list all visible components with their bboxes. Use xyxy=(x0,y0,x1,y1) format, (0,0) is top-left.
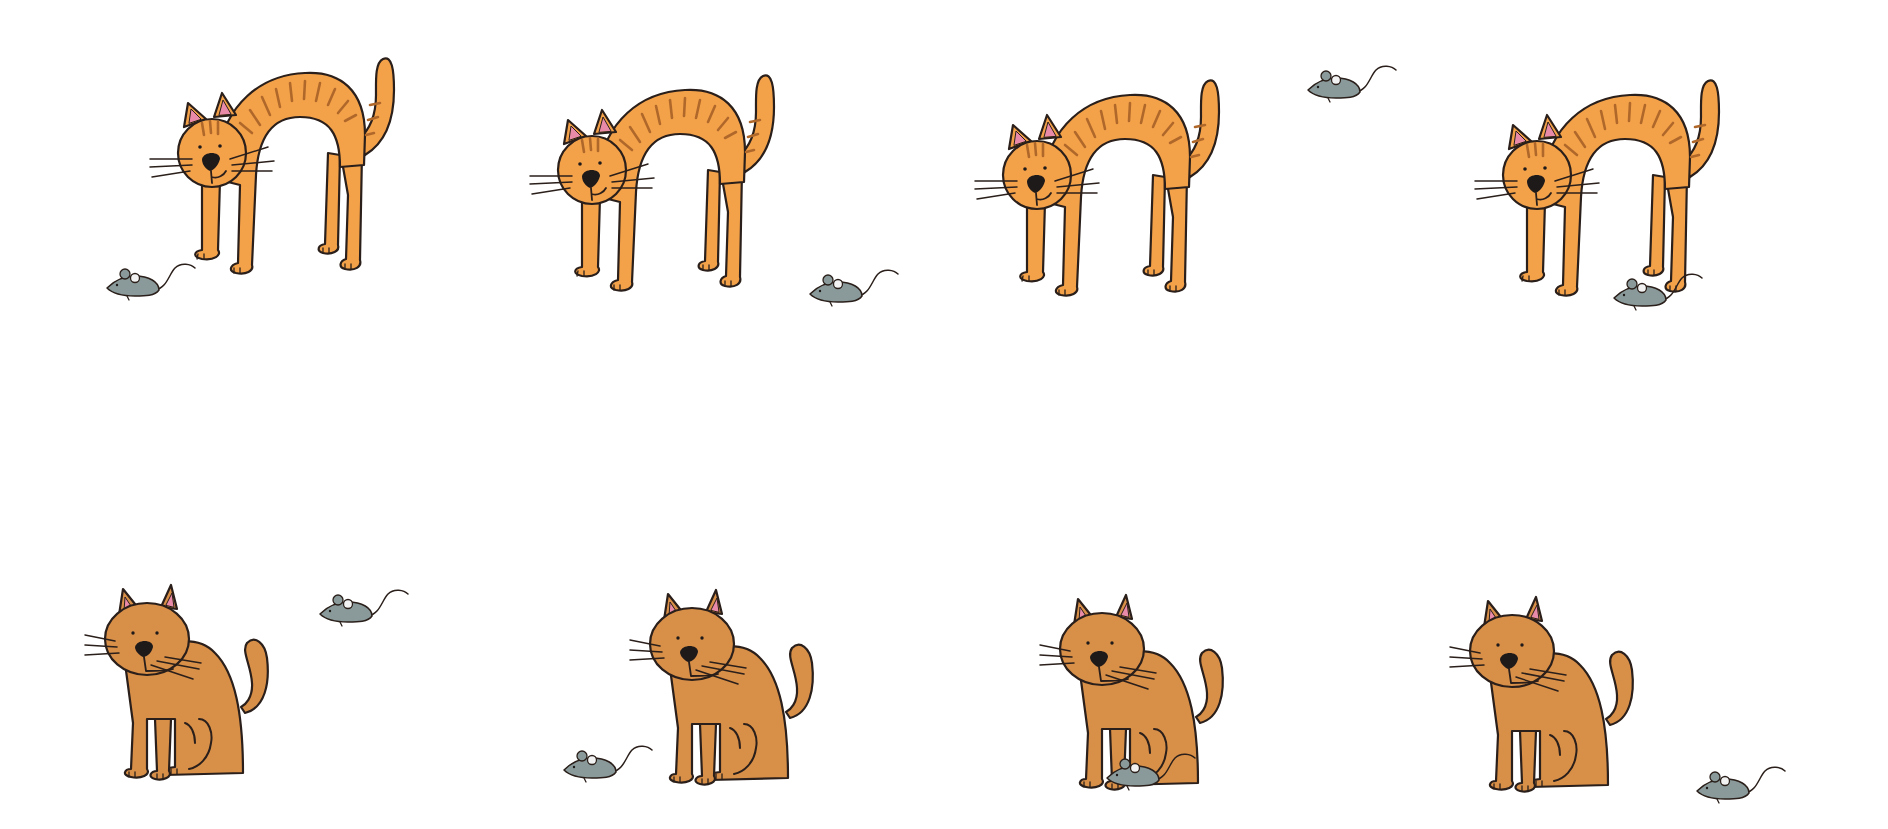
mouse-eye xyxy=(1317,86,1319,88)
arched-cat xyxy=(180,55,410,285)
cat-front-leg xyxy=(1516,731,1536,792)
mouse-foot xyxy=(127,296,129,300)
cat-front-leg-left xyxy=(575,197,600,276)
cat-eye-right xyxy=(218,144,222,148)
mouse-tail xyxy=(1662,274,1702,300)
panel-1-mouse xyxy=(105,262,200,306)
mouse-eye xyxy=(573,766,575,768)
mouse-tail xyxy=(155,264,195,290)
cat-back-leg-left xyxy=(1144,175,1165,276)
cat-front-leg-left xyxy=(195,180,220,259)
arched-cat xyxy=(1005,77,1235,307)
mouse xyxy=(1695,765,1790,805)
mouse-ear-back xyxy=(1627,279,1637,289)
cat-eye-left xyxy=(1086,641,1089,644)
cat-front-leg xyxy=(696,724,716,785)
mouse-eye xyxy=(1116,774,1118,776)
mouse-tail xyxy=(1745,767,1785,793)
panel-2-mouse xyxy=(808,268,903,312)
panel-5-mouse xyxy=(318,588,413,632)
cat-eye-right xyxy=(1110,641,1113,644)
mouse-eye xyxy=(329,610,331,612)
mouse-tail xyxy=(368,590,408,616)
panel-1-cat xyxy=(180,55,410,289)
cat-eye-left xyxy=(1523,167,1527,171)
panel-7-mouse xyxy=(1105,752,1200,796)
cat-eye-right xyxy=(1520,643,1523,646)
mouse-ear-front xyxy=(1332,76,1341,85)
panel-8-cat xyxy=(1460,585,1660,799)
mouse xyxy=(1612,272,1707,312)
mouse-ear-front xyxy=(588,756,597,765)
panel-2-cat xyxy=(560,72,790,306)
illustration-sheet xyxy=(0,0,1888,829)
mouse-eye xyxy=(819,290,821,292)
cat-tail xyxy=(786,645,813,718)
panel-6-cat xyxy=(640,578,840,792)
mouse-ear-back xyxy=(577,751,587,761)
panel-3-mouse xyxy=(1306,64,1401,108)
mouse-ear-back xyxy=(333,595,343,605)
mouse-tail xyxy=(1155,754,1195,780)
mouse-eye xyxy=(116,284,118,286)
cat-back-leg-left xyxy=(319,153,340,254)
panel-3-cat xyxy=(1005,77,1235,311)
panel-8-mouse xyxy=(1695,765,1790,809)
mouse-ear-back xyxy=(1120,759,1130,769)
cat-eye-right xyxy=(598,161,602,165)
mouse xyxy=(562,744,657,784)
sitting-cat xyxy=(640,578,840,788)
mouse-ear-back xyxy=(1321,71,1331,81)
cat-eye-left xyxy=(578,162,582,166)
cat-eye-right xyxy=(700,636,703,639)
mouse-tail xyxy=(858,270,898,296)
cat-eye-left xyxy=(676,636,679,639)
mouse-tail xyxy=(1356,66,1396,92)
cat-eye-right xyxy=(155,631,158,634)
mouse-eye xyxy=(1623,294,1625,296)
mouse-ear-front xyxy=(131,274,140,283)
cat-back-leg-right xyxy=(720,167,742,287)
mouse-ear-front xyxy=(1638,284,1647,293)
mouse-ear-back xyxy=(120,269,130,279)
mouse-foot xyxy=(584,778,586,782)
cat-eye-right xyxy=(1043,166,1047,170)
cat-eye-left xyxy=(131,631,134,634)
cat-front-leg-left xyxy=(1520,202,1545,281)
arched-cat xyxy=(560,72,790,302)
mouse-ear-front xyxy=(834,280,843,289)
cat-eye-left xyxy=(198,145,202,149)
cat-eye-left xyxy=(1023,167,1027,171)
mouse-foot xyxy=(1127,786,1129,790)
cat-tail xyxy=(1606,652,1633,725)
cat-front-leg-left xyxy=(1020,202,1045,281)
sitting-cat xyxy=(95,573,295,783)
mouse-ear-front xyxy=(344,600,353,609)
mouse-ear-back xyxy=(1710,772,1720,782)
mouse xyxy=(105,262,200,302)
cat-back-leg-left xyxy=(699,170,720,271)
mouse xyxy=(1306,64,1401,104)
mouse-ear-front xyxy=(1721,777,1730,786)
mouse-eye xyxy=(1706,787,1708,789)
sitting-cat xyxy=(1460,585,1660,795)
cat-tail xyxy=(241,640,268,713)
mouse-ear-back xyxy=(823,275,833,285)
mouse xyxy=(808,268,903,308)
cat-tail xyxy=(1196,650,1223,723)
panel-6-mouse xyxy=(562,744,657,788)
mouse xyxy=(318,588,413,628)
mouse-foot xyxy=(340,622,342,626)
mouse-foot xyxy=(1717,799,1719,803)
mouse-foot xyxy=(1328,98,1330,102)
panel-4-mouse xyxy=(1612,272,1707,316)
cat-back-leg-right xyxy=(340,150,362,270)
mouse-ear-front xyxy=(1131,764,1140,773)
cat-eye-left xyxy=(1496,643,1499,646)
mouse-tail xyxy=(612,746,652,772)
cat-front-leg xyxy=(151,719,171,780)
cat-back-leg-left xyxy=(1644,175,1665,276)
cat-back-leg-right xyxy=(1165,172,1187,292)
panel-5-cat xyxy=(95,573,295,787)
mouse-foot xyxy=(830,302,832,306)
